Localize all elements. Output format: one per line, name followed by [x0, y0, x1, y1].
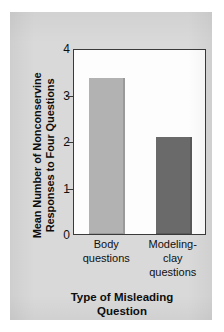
y-tick-mark: [66, 189, 73, 190]
x-axis-ticks: Body questionsModeling-clay questions: [73, 238, 206, 279]
figure: 01234 Mean Number of NonconservineRespon…: [0, 0, 224, 332]
y-tick-label: 0: [63, 229, 70, 241]
y-axis-title: Mean Number of NonconservineResponses to…: [31, 55, 58, 255]
chart-panel: 01234 Mean Number of NonconservineRespon…: [10, 12, 212, 320]
y-axis-title-line: Responses to Four Questions: [44, 55, 57, 255]
bar: [156, 137, 192, 234]
plot-area: [73, 49, 206, 235]
x-tick-label: Modeling-clay questions: [140, 238, 207, 279]
x-axis-title: Type of Misleading Question: [34, 290, 210, 319]
y-tick-label: 4: [63, 43, 70, 55]
y-tick-mark: [66, 142, 73, 143]
bar-fill: [89, 78, 125, 234]
y-axis-title-line: Mean Number of Nonconservine: [31, 55, 44, 255]
bar-fill: [156, 137, 192, 234]
bar: [89, 78, 125, 234]
x-tick-label: Body questions: [73, 238, 140, 279]
y-tick-mark: [66, 96, 73, 97]
